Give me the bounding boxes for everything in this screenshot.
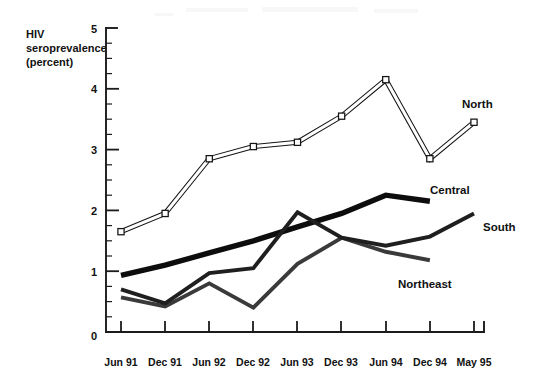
- series-north-marker: [162, 210, 168, 216]
- series-north-marker: [250, 143, 256, 149]
- series-north-marker: [427, 156, 433, 162]
- x-label-dec-93: Dec 93: [324, 356, 358, 368]
- y-tick-label-5: 5: [91, 23, 97, 35]
- x-label-jun-91: Jun 91: [104, 356, 137, 368]
- x-label-dec-91: Dec 91: [148, 356, 182, 368]
- y-tick-label-0: 0: [91, 330, 97, 342]
- series-north-marker: [206, 156, 212, 162]
- x-label-jun-94: Jun 94: [369, 356, 402, 368]
- chart-svg: HIV seroprevalence (percent): [0, 0, 538, 383]
- series-north-marker: [383, 77, 389, 83]
- y-tick-label-2: 2: [91, 205, 97, 217]
- hiv-seroprevalence-chart: HIV seroprevalence (percent): [0, 0, 538, 383]
- x-label-jun-92: Jun 92: [192, 356, 225, 368]
- series-north-marker: [339, 113, 345, 119]
- x-label-dec-92: Dec 92: [236, 356, 270, 368]
- y-axis-title-line1: HIV: [26, 28, 45, 40]
- series-north-marker: [471, 119, 477, 125]
- y-axis-title-line2: seroprevalence: [26, 42, 107, 54]
- y-axis-title-line3: (percent): [26, 56, 73, 68]
- series-north-marker: [294, 139, 300, 145]
- x-label-may-95: May 95: [456, 356, 491, 368]
- series-label-central: Central: [430, 184, 470, 196]
- y-tick-label-1: 1: [91, 266, 97, 278]
- series-label-south: South: [483, 221, 516, 233]
- series-label-north: North: [462, 98, 493, 110]
- y-tick-label-4: 4: [91, 83, 98, 95]
- y-tick-label-3: 3: [91, 144, 97, 156]
- series-label-northeast: Northeast: [398, 278, 452, 290]
- x-label-dec-94: Dec 94: [413, 356, 447, 368]
- x-axis-labels: Jun 91 Dec 91 Jun 92 Dec 92 Jun 93 Dec 9…: [104, 356, 491, 368]
- x-label-jun-93: Jun 93: [280, 356, 313, 368]
- series-north-marker: [118, 229, 124, 235]
